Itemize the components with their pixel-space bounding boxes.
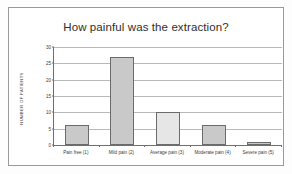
y-axis-tick-label: 5 [48, 126, 51, 131]
bar-slot [100, 47, 146, 145]
x-axis-label: Mild pain (2) [99, 150, 145, 155]
x-axis-label: Severe pain (5) [235, 150, 281, 155]
y-axis-tick-label: 30 [46, 45, 51, 50]
x-axis-tick-mark [53, 145, 54, 147]
bar-slot [236, 47, 282, 145]
x-axis-label: Moderate pain (4) [190, 150, 236, 155]
chart-title: How painful was the extraction? [9, 21, 283, 33]
x-axis-tick-mark [235, 145, 236, 147]
bar-slot [191, 47, 237, 145]
y-axis-tick-label: 25 [46, 61, 51, 66]
x-axis-label: Pain free (1) [53, 150, 99, 155]
x-axis-tick-mark [190, 145, 191, 147]
y-axis-tick-label: 20 [46, 77, 51, 82]
x-axis-tick-mark [281, 145, 282, 147]
y-axis-tick-label: 10 [46, 110, 51, 115]
plot-area: 051015202530 [53, 47, 282, 146]
bar [202, 125, 226, 145]
chart-page: How painful was the extraction? NUMBER O… [0, 0, 292, 174]
y-axis-tick-label: 0 [48, 143, 51, 148]
x-axis-label: Average pain (3) [144, 150, 190, 155]
bar-series [54, 47, 282, 145]
bar-slot [54, 47, 100, 145]
bar [247, 142, 271, 145]
gridline [54, 145, 282, 146]
y-axis-tick-label: 15 [46, 94, 51, 99]
bar [156, 112, 180, 145]
y-axis-title: NUMBER OF PATIENTS [19, 62, 24, 136]
x-axis-labels: Pain free (1)Mild pain (2)Average pain (… [53, 150, 281, 155]
x-axis-tick-mark [99, 145, 100, 147]
bar [65, 125, 89, 145]
bar [110, 57, 134, 145]
x-axis-tick-mark [144, 145, 145, 147]
bar-slot [145, 47, 191, 145]
chart-frame: How painful was the extraction? NUMBER O… [8, 7, 284, 166]
